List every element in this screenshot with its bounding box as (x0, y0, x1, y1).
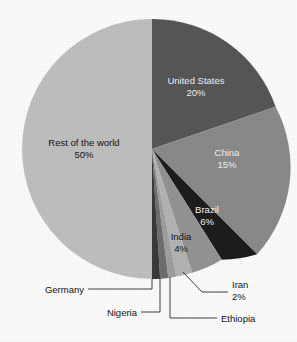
label-china-value: 15% (217, 159, 237, 170)
label-brazil-name: Brazil (195, 204, 219, 215)
label-united-states-value: 20% (186, 87, 206, 98)
label-iran-value: 2% (232, 291, 246, 302)
label-india-value: 4% (174, 243, 188, 254)
leader-line-germany (88, 279, 152, 289)
label-brazil-value: 6% (200, 216, 214, 227)
leader-line-iran (183, 272, 228, 292)
leader-line-nigeria (141, 278, 160, 312)
label-germany-name: Germany (45, 284, 84, 295)
pie-chart-canvas: United States 20% China 15% Brazil 6% In… (0, 0, 297, 342)
label-china-name: China (215, 147, 241, 158)
label-united-states-name: United States (167, 75, 224, 86)
label-rest-of-the-world-name: Rest of the world (48, 137, 119, 148)
pie-chart-figure: United States 20% China 15% Brazil 6% In… (0, 0, 297, 342)
pie-slices (22, 19, 291, 279)
label-iran-name: Iran (232, 279, 248, 290)
callout-labels: Iran 2% Ethiopia Nigeria Germany (45, 279, 256, 324)
label-ethiopia-name: Ethiopia (221, 313, 256, 324)
label-india-name: India (171, 231, 192, 242)
label-rest-of-the-world-value: 50% (74, 149, 94, 160)
label-nigeria-name: Nigeria (107, 307, 138, 318)
